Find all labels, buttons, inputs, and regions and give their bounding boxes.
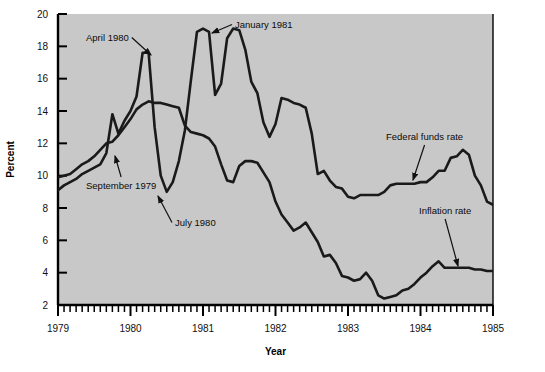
y-tick-label: 8 [42,203,48,214]
annotation-label: September 1979 [86,180,156,191]
y-tick-label: 16 [37,73,49,84]
x-tick-label: 1980 [119,323,142,334]
annotation-label: Federal funds rate [386,131,463,142]
plot-area-background [58,14,493,305]
annotation-label: April 1980 [86,32,129,43]
annotation-label: January 1981 [235,19,293,30]
y-tick-label: 14 [37,106,49,117]
x-axis-title: Year [265,346,286,357]
y-tick-label: 12 [37,138,49,149]
x-tick-label: 1982 [264,323,287,334]
x-tick-label: 1979 [47,323,70,334]
y-tick-label: 2 [42,300,48,311]
chart-figure: 2468101214161820197919801981198219831984… [0,0,545,372]
x-tick-label: 1985 [482,323,505,334]
y-tick-label: 10 [37,170,49,181]
y-tick-label: 18 [37,41,49,52]
x-tick-label: 1983 [337,323,360,334]
y-tick-label: 6 [42,235,48,246]
y-tick-label: 20 [37,9,49,20]
y-tick-label: 4 [42,267,48,278]
interest-rates-line-chart: 2468101214161820197919801981198219831984… [0,0,545,372]
annotation-label: July 1980 [175,217,216,228]
x-tick-label: 1981 [192,323,215,334]
annotation-label: Inflation rate [419,205,471,216]
x-tick-label: 1984 [409,323,432,334]
y-axis-title: Percent [5,140,16,177]
